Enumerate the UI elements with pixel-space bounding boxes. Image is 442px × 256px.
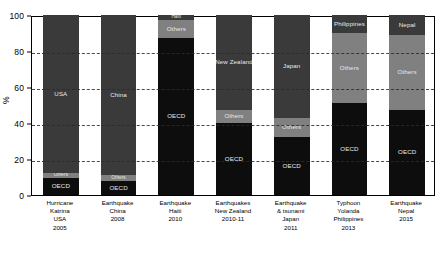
bar-segment[interactable]: OECD: [216, 123, 252, 195]
x-axis-category-line: Katrina: [31, 207, 89, 215]
x-axis-category-label: TyphoonYolandaPhilippines2013: [320, 199, 378, 232]
bar-segment[interactable]: Haiti: [158, 15, 194, 20]
y-axis-tick-label: 60: [14, 83, 24, 93]
bar-segment[interactable]: Others: [43, 173, 79, 178]
bar-segment[interactable]: OECD: [43, 178, 79, 195]
x-axis-category-line: Earthquakes: [204, 199, 262, 207]
bar-group[interactable]: OECDOthersNew Zealand: [216, 17, 252, 195]
bar-segment-label: Others: [340, 65, 359, 72]
bar-segment-label: Nepal: [399, 22, 416, 29]
bar-stack: OECDOthersNew Zealand: [216, 17, 252, 195]
x-axis-category-label: EarthquakeHaiti2010: [146, 199, 204, 224]
x-axis-category-line: 2010: [146, 215, 204, 223]
bar-stack: OECDOthersPhilippines: [332, 17, 368, 195]
bar-stack: OECDOthersUSA: [43, 17, 79, 195]
x-axis-category-line: 2010-11: [204, 215, 262, 223]
x-axis-category-line: 2005: [31, 224, 89, 232]
x-axis-category-line: 2011: [262, 224, 320, 232]
bar-segment[interactable]: Philippines: [332, 15, 368, 33]
bar-segment-label: Philippines: [334, 21, 365, 28]
y-axis: 020406080100: [0, 16, 31, 196]
bar-stack: OECDOthersJapan: [274, 17, 310, 195]
x-axis-category-line: New Zealand: [204, 207, 262, 215]
bar-segment[interactable]: Others: [332, 33, 368, 103]
x-axis-category-line: Earthquake: [262, 199, 320, 207]
plot-area: OECDOthersUSAOECDOthersChinaOECDOthersHa…: [31, 16, 435, 196]
bar-group[interactable]: OECDOthersNepal: [389, 17, 425, 195]
bar-segment[interactable]: Others: [158, 20, 194, 38]
bar-segment[interactable]: OECD: [332, 103, 368, 195]
bar-segment-label: Others: [398, 69, 417, 76]
bar-segment-label: Japan: [283, 63, 300, 70]
bar-group[interactable]: OECDOthersPhilippines: [332, 17, 368, 195]
bar-segment-label: OECD: [340, 146, 358, 153]
x-axis-category-line: 2008: [89, 215, 147, 223]
bar-segment-label: OECD: [52, 183, 70, 190]
bar-segment-label: New Zealand: [216, 59, 252, 66]
bar-segment-label: Others: [54, 173, 68, 178]
x-axis-category-line: & tsunami: [262, 207, 320, 215]
x-axis-category-line: Earthquake: [377, 199, 435, 207]
bar-segment[interactable]: OECD: [389, 110, 425, 195]
x-axis-category-line: Hurricane: [31, 199, 89, 207]
x-axis-category-line: Japan: [262, 215, 320, 223]
bar-segment[interactable]: OECD: [158, 38, 194, 195]
bar-segment-label: Others: [224, 113, 243, 120]
bar-segment-label: OECD: [398, 149, 416, 156]
x-axis-category-label: EarthquakeChina2008: [89, 199, 147, 224]
bar-segment[interactable]: China: [101, 15, 137, 175]
x-axis-category-line: Earthquake: [146, 199, 204, 207]
bar-group[interactable]: OECDOthersHaiti: [158, 17, 194, 195]
x-axis-category-label: EarthquakesNew Zealand2010-11: [204, 199, 262, 224]
x-axis-category-line: Haiti: [146, 207, 204, 215]
bar-segment[interactable]: Others: [274, 118, 310, 138]
bar-segment-label: OECD: [225, 156, 243, 163]
bar-segment-label: OECD: [167, 113, 185, 120]
bar-segment-label: OECD: [283, 163, 301, 170]
bar-segment[interactable]: Japan: [274, 15, 310, 118]
bar-group[interactable]: OECDOthersChina: [101, 17, 137, 195]
y-axis-tick-label: 80: [14, 47, 24, 57]
bar-segment[interactable]: OECD: [274, 137, 310, 195]
chart-figure: % 020406080100 OECDOthersUSAOECDOthersCh…: [0, 0, 442, 256]
x-axis-category-label: Earthquake& tsunamiJapan2011: [262, 199, 320, 232]
x-axis-category-label: EarthquakeNepal2015: [377, 199, 435, 224]
bar-segment-label: Haiti: [171, 15, 181, 20]
x-axis-category-line: 2013: [320, 224, 378, 232]
bar-stack: OECDOthersChina: [101, 17, 137, 195]
x-axis-category-line: Yolanda: [320, 207, 378, 215]
bar-segment[interactable]: Others: [101, 175, 137, 180]
bar-stack: OECDOthersNepal: [389, 17, 425, 195]
x-axis-category-labels: HurricaneKatrinaUSA2005EarthquakeChina20…: [31, 199, 435, 251]
bar-segment[interactable]: Nepal: [389, 15, 425, 35]
x-axis-category-line: USA: [31, 215, 89, 223]
bar-group[interactable]: OECDOthersJapan: [274, 17, 310, 195]
x-axis-category-line: China: [89, 207, 147, 215]
bars-layer: OECDOthersUSAOECDOthersChinaOECDOthersHa…: [32, 17, 434, 195]
y-axis-tick-label: 0: [19, 191, 24, 201]
y-axis-tick-label: 100: [10, 11, 24, 21]
bar-group[interactable]: OECDOthersUSA: [43, 17, 79, 195]
bar-segment-label: Others: [282, 124, 301, 131]
x-axis-category-line: Nepal: [377, 207, 435, 215]
y-axis-tick-label: 20: [14, 155, 24, 165]
bar-segment-label: China: [110, 92, 127, 99]
x-axis-category-line: 2015: [377, 215, 435, 223]
bar-segment[interactable]: Others: [216, 110, 252, 123]
x-axis-category-line: Philippines: [320, 215, 378, 223]
x-axis-category-line: Earthquake: [89, 199, 147, 207]
bar-segment[interactable]: USA: [43, 15, 79, 173]
bar-segment[interactable]: Others: [389, 35, 425, 111]
bar-segment-label: Others: [167, 26, 186, 33]
bar-stack: OECDOthersHaiti: [158, 17, 194, 195]
x-axis-category-line: Typhoon: [320, 199, 378, 207]
x-axis-category-label: HurricaneKatrinaUSA2005: [31, 199, 89, 232]
bar-segment-label: Others: [111, 176, 125, 181]
bar-segment-label: OECD: [109, 185, 127, 192]
bar-segment[interactable]: New Zealand: [216, 15, 252, 110]
y-axis-tick-label: 40: [14, 119, 24, 129]
bar-segment-label: USA: [54, 91, 67, 98]
bar-segment[interactable]: OECD: [101, 181, 137, 195]
